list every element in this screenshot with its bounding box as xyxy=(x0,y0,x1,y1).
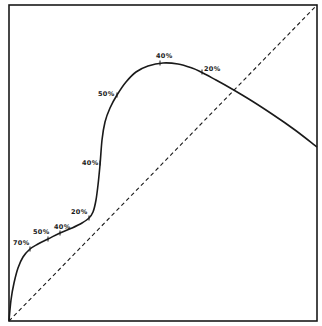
annotation-label: 20% xyxy=(204,65,221,73)
chart: 70%50%40%20%40%50%40%20% xyxy=(0,0,322,326)
annotation-label: 40% xyxy=(54,223,71,231)
annotation-label: 20% xyxy=(71,208,88,216)
annotation-label: 40% xyxy=(156,52,173,60)
annotation-label: 40% xyxy=(82,159,99,167)
curve-annotations: 70%50%40%20%40%50%40%20% xyxy=(13,52,221,252)
annotation-label: 50% xyxy=(33,228,50,236)
annotation-label: 50% xyxy=(98,90,115,98)
annotation-label: 70% xyxy=(13,239,30,247)
main-curve xyxy=(9,63,317,321)
